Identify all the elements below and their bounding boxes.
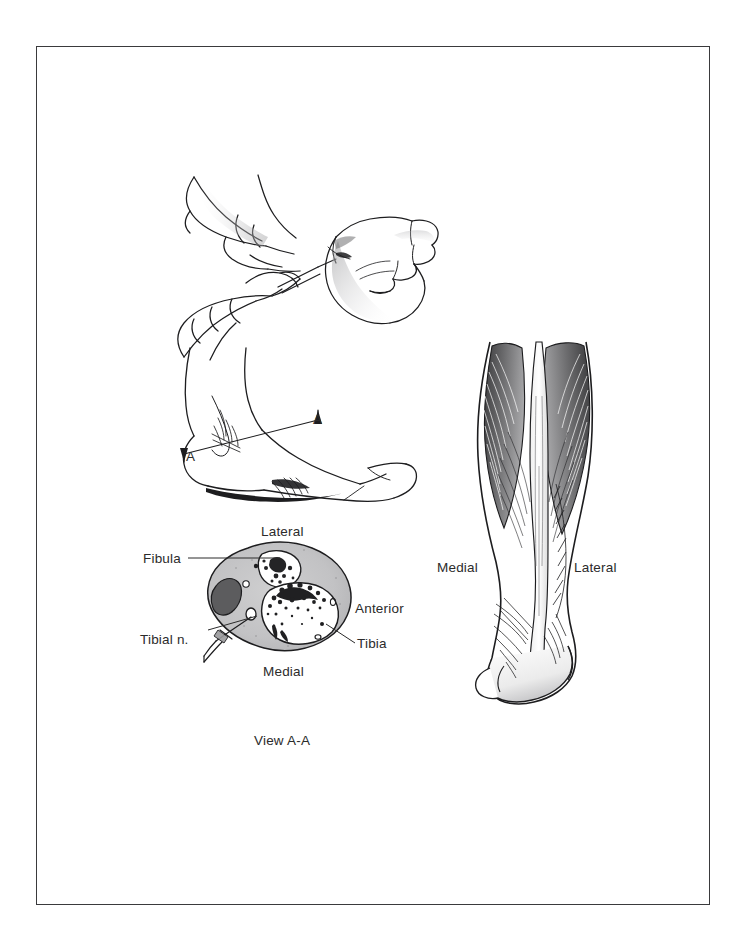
label-tibial-nerve: Tibial n. [140, 632, 189, 647]
label-cross-section-medial: Medial [263, 664, 304, 679]
label-calf-lateral: Lateral [574, 560, 617, 575]
panel-posterior-calf [448, 336, 628, 706]
section-marker-lower: A [186, 449, 195, 464]
label-fibula: Fibula [143, 551, 181, 566]
label-cross-section-lateral: Lateral [261, 524, 304, 539]
section-marker-upper: A [313, 412, 322, 427]
panel-injection-technique [150, 175, 450, 360]
page-canvas: A A [0, 0, 747, 940]
label-anterior: Anterior [355, 601, 404, 616]
label-tibia: Tibia [357, 636, 387, 651]
label-calf-medial: Medial [437, 560, 478, 575]
panel-lateral-ankle [168, 348, 438, 526]
caption-view-a-a: View A-A [254, 733, 310, 748]
